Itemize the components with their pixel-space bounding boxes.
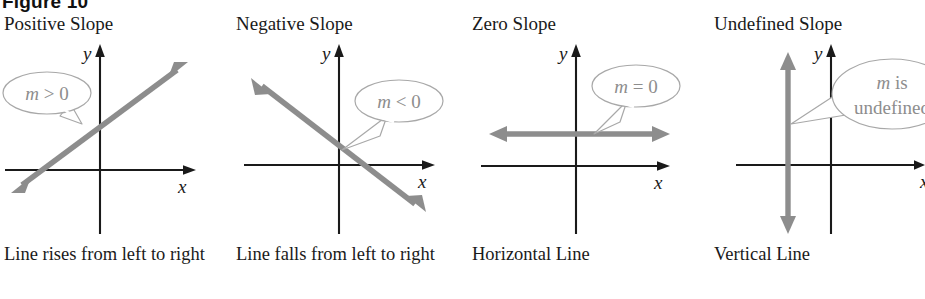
- panel-title-zero-slope: Zero Slope: [472, 13, 556, 35]
- x-axis-label-zero: x: [653, 172, 663, 193]
- callout-label-positive: m > 0: [25, 83, 68, 104]
- panel-title-negative-slope: Negative Slope: [236, 13, 353, 35]
- plot-positive-slope: y x m > 0: [0, 38, 232, 238]
- callout-positive-slope: m > 0: [3, 72, 91, 124]
- callout-var-undefined: m: [876, 72, 890, 93]
- panel-zero-slope: Zero Slope y x: [464, 0, 696, 299]
- callout-rest-positive: > 0: [39, 83, 69, 104]
- panel-positive-slope: Positive Slope y x: [0, 0, 232, 299]
- slope-line-zero: [489, 126, 670, 142]
- callout-rest-zero: = 0: [628, 76, 658, 97]
- callout-label-negative: m < 0: [377, 91, 420, 112]
- plot-undefined-slope: y x m is undefined: [696, 38, 925, 238]
- y-axis-label-positive: y: [81, 43, 92, 64]
- panel-caption-zero-slope: Horizontal Line: [472, 243, 687, 266]
- callout-var-zero: m: [614, 76, 628, 97]
- y-axis-label-negative: y: [320, 43, 331, 64]
- callout-rest-negative: < 0: [391, 91, 421, 112]
- panel-title-undefined-slope: Undefined Slope: [714, 13, 842, 35]
- callout-label-undefined-line2: undefined: [854, 97, 925, 118]
- y-axis-zero: [571, 44, 581, 234]
- plot-zero-slope: y x m = 0: [464, 38, 696, 238]
- callout-var-positive: m: [25, 83, 39, 104]
- callout-label-zero: m = 0: [614, 76, 657, 97]
- y-axis-undefined: [826, 44, 836, 234]
- y-axis-negative: [334, 44, 344, 234]
- x-axis-label-undefined: x: [919, 171, 925, 192]
- x-axis-label-positive: x: [177, 176, 187, 197]
- slope-line-undefined: [780, 52, 796, 234]
- callout-zero-slope: m = 0: [592, 65, 680, 134]
- callout-label-undefined-line1: m is: [876, 72, 907, 93]
- panel-undefined-slope: Undefined Slope y x: [696, 0, 925, 299]
- callout-negative-slope: m < 0: [342, 80, 443, 150]
- slope-figure: Figure 10 Positive Slope y x: [0, 0, 925, 299]
- x-axis-label-negative: x: [417, 171, 427, 192]
- panel-caption-negative-slope: Line falls from left to right: [236, 243, 454, 266]
- y-axis-positive: [95, 44, 105, 234]
- y-axis-label-undefined: y: [812, 43, 823, 64]
- panel-caption-positive-slope: Line rises from left to right: [4, 243, 219, 266]
- callout-rest-undefined: is: [890, 72, 907, 93]
- y-axis-label-zero: y: [557, 43, 568, 64]
- plot-negative-slope: y x m < 0: [232, 38, 464, 238]
- panel-caption-undefined-slope: Vertical Line: [714, 243, 919, 266]
- callout-var-negative: m: [377, 91, 391, 112]
- callout-undefined-slope: m is undefined: [791, 59, 925, 129]
- panel-title-positive-slope: Positive Slope: [4, 13, 113, 35]
- panel-negative-slope: Negative Slope y x: [232, 0, 464, 299]
